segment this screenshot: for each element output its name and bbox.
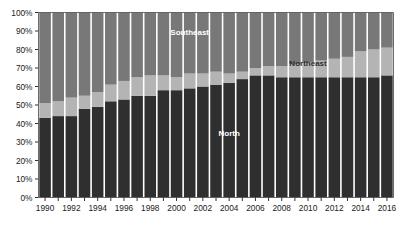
series-label-northeast: Northeast [289,59,327,68]
bar-segment [276,13,288,67]
x-tick-label: 1996 [115,203,134,213]
bar-segment [118,81,130,100]
x-tick-label: 2014 [351,203,370,213]
bar-segment [302,77,314,197]
bar-segment [92,92,104,107]
bar-segment [263,75,275,197]
bar-segment [381,48,393,76]
bar-segment [66,13,78,98]
bar-segment [39,118,51,198]
bar-segment [289,13,301,65]
bar-segment [144,13,156,76]
bar-segment [66,116,78,197]
bar-segment [381,75,393,197]
bar-segment [250,13,262,69]
x-tick-label: 1992 [62,203,81,213]
bar-segment [79,13,91,96]
bar-segment [197,74,209,87]
bar-segment [223,74,235,83]
bar-segment [302,13,314,63]
bar-segment [131,96,143,198]
bar-segment [184,88,196,197]
bar-segment [329,13,341,59]
bar-segment [329,77,341,197]
bar-segment [105,101,117,197]
bar-segment [79,96,91,109]
bar-segment [144,75,156,95]
x-tick-label: 2004 [220,203,239,213]
bar-segment [250,68,262,75]
bar-segment [118,99,130,197]
bar-segment [368,50,380,78]
bar-segment [315,13,327,61]
bar-segment [276,77,288,197]
stacked-bar-chart: 0%10%20%30%40%50%60%70%80%90%100% 199019… [0,0,416,232]
bar-segment [342,13,354,57]
bars-layer [39,13,392,198]
bar-segment [171,13,183,78]
bar-segment [184,74,196,89]
bar-segment [355,13,367,52]
x-tick-label: 1994 [88,203,107,213]
bar-segment [342,77,354,197]
bar-segment [237,13,249,72]
bar-segment [223,13,235,74]
bar-segment [52,116,64,197]
x-tick-label: 2012 [325,203,344,213]
y-tick-label: 90% [16,26,33,36]
bar-segment [276,66,288,77]
bar-segment [158,90,170,197]
series-label-north: North [218,129,239,138]
bar-segment [171,77,183,90]
bar-segment [368,13,380,50]
bar-segment [52,101,64,116]
y-tick-label: 20% [16,156,33,166]
bar-segment [105,85,117,102]
y-tick-label: 0% [21,193,34,203]
bar-segment [184,13,196,74]
bar-segment [210,72,222,85]
bar-segment [250,75,262,197]
x-tick-label: 1998 [141,203,160,213]
y-tick-label: 100% [11,8,33,18]
y-tick-label: 70% [16,63,33,73]
bar-segment [171,90,183,197]
x-axis: 1990199219941996199820002002200420062008… [36,198,397,214]
x-tick-label: 2008 [273,203,292,213]
bar-segment [92,107,104,198]
chart-canvas: 0%10%20%30%40%50%60%70%80%90%100% 199019… [0,0,416,232]
y-tick-label: 10% [16,174,33,184]
bar-segment [197,13,209,74]
bar-segment [131,77,143,96]
bar-segment [66,98,78,117]
x-tick-label: 1990 [36,203,55,213]
bar-segment [329,59,341,78]
bar-segment [158,75,170,90]
bar-segment [158,13,170,76]
bar-segment [210,85,222,198]
bar-segment [355,51,367,77]
y-tick-label: 50% [16,100,33,110]
bar-segment [315,77,327,197]
bar-segment [92,13,104,93]
y-axis: 0%10%20%30%40%50%60%70%80%90%100% [11,8,38,203]
bar-segment [131,13,143,78]
y-tick-label: 40% [16,119,33,129]
bar-segment [237,72,249,79]
bar-segment [79,109,91,198]
bar-segment [263,66,275,75]
bar-segment [52,13,64,102]
bar-segment [368,77,380,197]
bar-segment [263,13,275,67]
bar-segment [289,77,301,197]
x-tick-label: 2010 [299,203,318,213]
bar-segment [197,87,209,198]
bar-segment [105,13,117,85]
bar-segment [342,57,354,77]
bar-segment [223,83,235,198]
x-tick-label: 2006 [246,203,265,213]
x-tick-label: 2016 [378,203,397,213]
bar-segment [39,13,51,104]
x-tick-label: 2000 [167,203,186,213]
bar-segment [144,96,156,198]
